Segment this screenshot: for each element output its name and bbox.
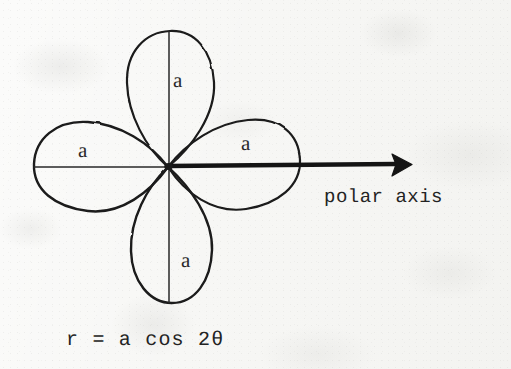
axis-lines-group	[34, 31, 169, 303]
petal-label-bottom: a	[181, 250, 190, 271]
polar-axis-caption: polar axis	[324, 188, 443, 207]
figure-page: a a a a polar axis r = a cos 2θ	[0, 0, 511, 369]
petal-label-top: a	[173, 70, 182, 91]
petal-label-left: a	[78, 140, 87, 161]
polar-rose-diagram	[0, 0, 511, 369]
rose-petal-bottom	[131, 167, 212, 303]
pole-ink-blot	[164, 163, 172, 170]
rose-petal-top	[127, 31, 214, 167]
petal-label-right: a	[241, 133, 250, 154]
polar-axis-shaft	[168, 164, 396, 166]
equation-caption: r = a cos 2θ	[66, 331, 224, 351]
polar-axis-arrow	[168, 154, 412, 176]
